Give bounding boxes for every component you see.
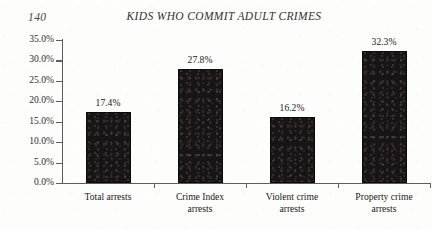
- x-axis-tick-mark: [338, 183, 339, 188]
- bar-value-label: 27.8%: [170, 54, 230, 65]
- x-axis-tick-mark: [154, 183, 155, 188]
- bar: [362, 51, 407, 183]
- x-axis-tick-mark: [246, 183, 247, 188]
- bar: [86, 112, 131, 183]
- x-axis-category-label: Violent crimearrests: [246, 191, 338, 214]
- y-axis-tick-label: 10.0%: [29, 135, 54, 146]
- y-axis-tick-label: 5.0%: [34, 156, 54, 167]
- x-axis-category-label: Property crimearrests: [338, 191, 430, 214]
- y-axis-tick-label: 15.0%: [29, 115, 54, 126]
- y-axis-tick-label: 30.0%: [29, 53, 54, 64]
- y-axis-tick-label: 0.0%: [34, 176, 54, 187]
- x-axis-category-label-line: Total arrests: [62, 191, 154, 203]
- bar-value-label: 17.4%: [78, 97, 138, 108]
- y-axis-tick-label: 35.0%: [29, 33, 54, 44]
- y-axis-tick-label: 25.0%: [29, 74, 54, 85]
- x-axis-category-label-line: Crime Index: [154, 191, 246, 203]
- x-axis-category-label-line: Violent crime: [246, 191, 338, 203]
- y-axis-line: [62, 39, 63, 184]
- scanned-page: 140 KIDS WHO COMMIT ADULT CRIMES 0.0%5.0…: [0, 0, 432, 230]
- x-axis-category-label-line: arrests: [338, 203, 430, 215]
- x-axis-category-label: Crime Indexarrests: [154, 191, 246, 214]
- x-axis-category-label-line: Property crime: [338, 191, 430, 203]
- chart-title: KIDS WHO COMMIT ADULT CRIMES: [0, 10, 432, 22]
- bar: [178, 69, 223, 183]
- bar-value-label: 16.2%: [262, 102, 322, 113]
- x-axis-category-label-line: arrests: [154, 203, 246, 215]
- x-axis-category-label: Total arrests: [62, 191, 154, 203]
- bar: [270, 117, 315, 183]
- bar-value-label: 32.3%: [354, 36, 414, 47]
- x-axis-category-label-line: arrests: [246, 203, 338, 215]
- y-axis-tick-label: 20.0%: [29, 94, 54, 105]
- x-axis-end-tick-mark: [430, 183, 431, 188]
